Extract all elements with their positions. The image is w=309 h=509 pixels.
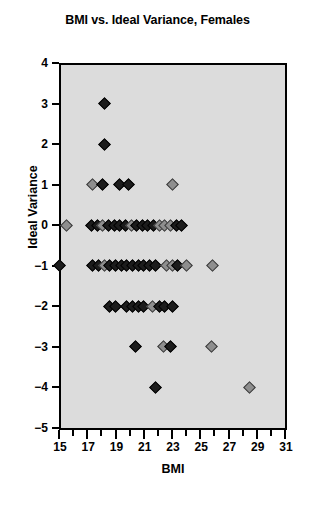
y-axis-tick <box>52 224 59 226</box>
x-axis-tick-label: 29 <box>243 441 273 454</box>
y-axis-tick <box>52 62 59 64</box>
scatter-chart: BMI vs. Ideal Variance, Females 43210−1−… <box>0 0 309 509</box>
x-axis-label: BMI <box>59 462 287 476</box>
x-axis-tick <box>171 430 173 439</box>
x-axis-tick-label: 23 <box>158 441 188 454</box>
y-axis-tick-label: −5 <box>8 422 48 434</box>
x-axis-tick <box>185 430 187 436</box>
y-axis-tick <box>52 103 59 105</box>
x-axis-tick-label: 15 <box>45 441 75 454</box>
y-axis-tick-label: −4 <box>8 381 48 393</box>
y-axis-tick <box>52 184 59 186</box>
y-axis-tick <box>52 386 59 388</box>
chart-title: BMI vs. Ideal Variance, Females <box>30 12 285 28</box>
x-axis-tick <box>115 430 117 439</box>
x-axis-tick <box>199 430 201 439</box>
x-axis-tick <box>143 430 145 439</box>
y-axis-tick-label: −3 <box>8 341 48 353</box>
plot-area <box>59 63 287 430</box>
y-axis-tick <box>52 305 59 307</box>
x-axis-tick-label: 21 <box>130 441 160 454</box>
x-axis-tick <box>270 430 272 436</box>
x-axis-tick <box>228 430 230 439</box>
x-axis-tick <box>129 430 131 436</box>
x-axis-tick <box>256 430 258 439</box>
x-axis-tick <box>100 430 102 436</box>
y-axis-tick-label: 4 <box>8 57 48 69</box>
x-axis-tick-label: 25 <box>186 441 216 454</box>
y-axis-tick <box>52 143 59 145</box>
y-axis-tick-label: −2 <box>8 300 48 312</box>
x-axis-tick <box>72 430 74 436</box>
x-axis-line <box>59 428 287 430</box>
x-axis-tick <box>242 430 244 436</box>
y-axis-label: Ideal Variance <box>26 122 40 292</box>
x-axis-tick-label: 17 <box>73 441 103 454</box>
x-axis-tick-label: 31 <box>271 441 301 454</box>
x-axis-tick <box>284 430 286 439</box>
x-axis-tick <box>213 430 215 436</box>
plot-frame-right <box>285 63 287 430</box>
x-axis-tick-label: 27 <box>215 441 245 454</box>
y-axis-tick-label: 3 <box>8 98 48 110</box>
x-axis-tick <box>86 430 88 439</box>
x-axis-tick <box>157 430 159 436</box>
x-axis-tick-label: 19 <box>102 441 132 454</box>
x-axis-tick <box>58 430 60 439</box>
y-axis-tick <box>52 427 59 429</box>
y-axis-tick <box>52 346 59 348</box>
